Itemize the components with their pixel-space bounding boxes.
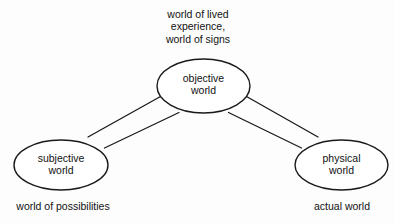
node-label-physical-world: physical world [295, 152, 388, 177]
caption-actual-world: actual world [292, 200, 392, 212]
node-label-objective-world: objective world [157, 72, 250, 97]
node-label-subjective-world: subjective world [14, 152, 108, 177]
edge-objective-physical [229, 97, 319, 149]
annotation-world-of-lived-experience: world of lived experience, world of sign… [133, 8, 263, 45]
edge-objective-subjective [88, 97, 179, 149]
edge-line-inner [229, 113, 302, 149]
edge-line-outer [247, 97, 319, 138]
caption-world-of-possibilities: world of possibilities [0, 200, 126, 212]
edge-line-outer [88, 97, 161, 138]
diagram-canvas: objective world subjective world physica… [0, 0, 395, 224]
edge-line-inner [105, 113, 180, 149]
